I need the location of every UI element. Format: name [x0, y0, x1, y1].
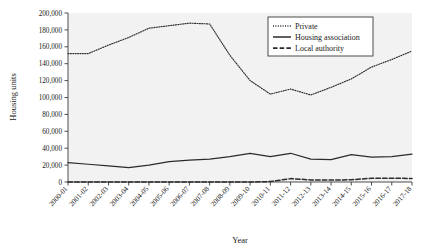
- legend-label-private: Private: [295, 22, 318, 31]
- x-tick-label: 2002-03: [88, 185, 110, 208]
- x-tick-label: 2017-18: [392, 185, 414, 208]
- x-tick-label: 2001-02: [68, 185, 90, 208]
- y-tick-label: 200,000: [39, 10, 63, 18]
- y-tick-label: 120,000: [39, 77, 63, 85]
- line-chart: 020,00040,00060,00080,000100,000120,0001…: [0, 0, 425, 249]
- x-tick-label: 2007-08: [189, 185, 211, 208]
- x-axis: 2000-012001-022002-032003-042004-052005-…: [48, 182, 414, 208]
- x-tick-label: 2016-17: [371, 185, 393, 208]
- x-tick-label: 2000-01: [48, 185, 70, 208]
- legend-label-local-authority: Local authority: [295, 44, 344, 53]
- x-tick-label: 2008-09: [209, 185, 231, 208]
- y-tick-label: 180,000: [39, 27, 63, 35]
- legend-label-housing-association: Housing association: [295, 33, 360, 42]
- y-tick-label: 100,000: [39, 94, 63, 102]
- x-axis-title: Year: [232, 235, 248, 245]
- y-axis: 020,00040,00060,00080,000100,000120,0001…: [39, 10, 68, 187]
- y-axis-title: Housing units: [8, 73, 18, 120]
- x-tick-label: 2014-15: [331, 185, 353, 208]
- chart-legend: PrivateHousing associationLocal authorit…: [268, 17, 373, 56]
- x-tick-label: 2015-16: [351, 185, 373, 208]
- x-tick-label: 2012-13: [290, 185, 312, 208]
- x-tick-label: 2006-07: [169, 185, 191, 208]
- y-tick-label: 40,000: [42, 145, 62, 153]
- y-tick-label: 20,000: [42, 162, 62, 170]
- x-tick-label: 2009-10: [230, 185, 252, 208]
- x-tick-label: 2010-11: [250, 185, 272, 208]
- x-tick-label: 2013-14: [311, 185, 333, 208]
- y-tick-label: 140,000: [39, 60, 63, 68]
- y-tick-label: 0: [58, 179, 62, 187]
- chart-figure: 020,00040,00060,00080,000100,000120,0001…: [0, 0, 425, 249]
- x-tick-label: 2004-05: [128, 185, 150, 208]
- y-tick-label: 80,000: [42, 111, 62, 119]
- x-tick-label: 2011-12: [270, 185, 292, 208]
- x-tick-label: 2003-04: [108, 185, 130, 208]
- y-tick-label: 160,000: [39, 43, 63, 51]
- y-tick-label: 60,000: [42, 128, 62, 136]
- x-tick-label: 2005-06: [149, 185, 171, 208]
